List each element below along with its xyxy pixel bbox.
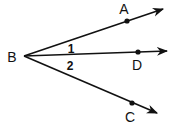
point-label-a: A <box>119 1 129 17</box>
point-label-d: D <box>132 57 142 73</box>
ray-ba <box>24 9 163 56</box>
angle-diagram: ADCB12 <box>0 0 177 128</box>
point-label-c: C <box>125 109 135 125</box>
angle-label-1: 1 <box>68 42 75 56</box>
vertex-label-b: B <box>7 49 16 65</box>
point-a <box>124 18 129 23</box>
angle-label-2: 2 <box>67 59 74 73</box>
point-d <box>135 49 140 54</box>
point-c <box>129 100 134 105</box>
diagram-svg: ADCB12 <box>0 0 177 128</box>
ray-bd <box>24 51 167 56</box>
